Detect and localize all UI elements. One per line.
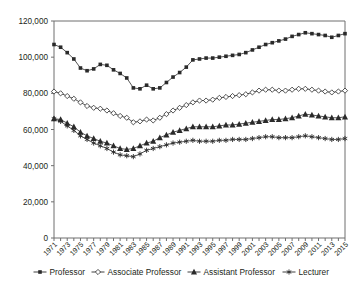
data-point (204, 56, 208, 60)
data-point (342, 114, 348, 120)
legend-marker-filled-square-icon (38, 270, 42, 274)
data-point (84, 103, 89, 108)
data-point (217, 95, 222, 100)
data-point (97, 138, 103, 144)
data-point (237, 53, 241, 57)
series-associate-professor (51, 86, 347, 125)
data-point (98, 106, 103, 111)
data-point (323, 89, 328, 94)
legend-label: Assistant Professor (204, 267, 276, 277)
data-point (112, 68, 116, 72)
data-point (92, 67, 96, 71)
data-point (137, 143, 143, 149)
data-point (151, 118, 156, 123)
data-point (330, 35, 334, 39)
y-axis-tick-label: 60,000 (23, 126, 48, 135)
data-point (224, 54, 228, 58)
data-point (211, 56, 215, 60)
chart-container: 020,00040,00060,00080,000100,000120,000 … (0, 0, 362, 288)
data-point (257, 45, 261, 49)
data-point (144, 148, 149, 153)
data-point (78, 100, 83, 105)
legend-item-assistant-professor[interactable]: Assistant Professor (188, 267, 276, 277)
series-layer (51, 31, 348, 159)
data-point (270, 41, 274, 45)
data-point (65, 51, 69, 55)
y-axis-tick-label: 20,000 (23, 198, 48, 207)
data-point (105, 64, 109, 68)
chart-legend: ProfessorAssociate ProfessorAssistant Pr… (34, 267, 330, 277)
data-point (303, 86, 308, 91)
y-axis-tick-label: 120,000 (18, 17, 48, 26)
data-point (190, 100, 195, 105)
data-point (125, 76, 129, 80)
data-point (218, 55, 222, 59)
data-point (343, 32, 347, 36)
legend-item-associate-professor[interactable]: Associate Professor (92, 267, 182, 277)
y-axis-tick-label: 80,000 (23, 89, 48, 98)
data-point (164, 112, 169, 117)
x-axis-tick-label: 2015 (332, 240, 350, 258)
data-point (104, 108, 109, 113)
data-point (297, 33, 301, 37)
data-point (289, 87, 294, 92)
chart-svg: 020,00040,00060,00080,000100,000120,000 … (0, 0, 362, 288)
data-point (157, 115, 162, 120)
legend-marker-open-diamond-icon (95, 269, 100, 274)
data-point (329, 90, 334, 95)
data-point (131, 120, 136, 125)
data-point (118, 72, 122, 76)
legend-label: Lecturer (299, 267, 330, 277)
data-point (210, 97, 215, 102)
data-point (177, 105, 182, 110)
data-point (304, 31, 308, 35)
data-point (198, 57, 202, 61)
data-point (256, 88, 261, 93)
data-point (58, 91, 63, 96)
data-point (163, 132, 169, 138)
data-point (72, 57, 76, 61)
data-point (71, 96, 76, 101)
data-point (150, 138, 156, 144)
legend-item-professor[interactable]: Professor (34, 267, 86, 277)
data-point (158, 144, 163, 149)
y-axis-tick-label: 0 (43, 234, 48, 243)
data-point (144, 117, 149, 122)
data-point (65, 93, 70, 98)
data-point (191, 58, 195, 62)
data-point (337, 34, 341, 38)
data-point (323, 34, 327, 38)
data-point (270, 87, 275, 92)
data-point (243, 92, 248, 97)
data-point (105, 146, 110, 151)
legend-item-lecturer[interactable]: Lecturer (283, 267, 330, 277)
data-point (151, 87, 155, 91)
data-point (52, 43, 56, 47)
data-point (124, 115, 129, 120)
data-point (130, 145, 136, 151)
data-point (118, 113, 123, 118)
y-axis-tick-label: 100,000 (18, 53, 48, 62)
data-point (110, 143, 116, 149)
series-lecturer (52, 116, 348, 159)
series-assistant-professor (51, 111, 348, 152)
data-point (317, 33, 321, 37)
data-point (184, 102, 189, 107)
data-point (117, 145, 123, 151)
data-point (237, 93, 242, 98)
data-point (283, 88, 288, 93)
data-point (336, 89, 341, 94)
data-point (171, 75, 175, 79)
data-point (164, 142, 169, 147)
data-point (178, 71, 182, 75)
data-point (310, 32, 314, 36)
data-point (85, 69, 89, 73)
data-point (316, 88, 321, 93)
legend-label: Professor (50, 267, 86, 277)
data-point (132, 86, 136, 90)
data-point (231, 54, 235, 58)
data-point (296, 86, 301, 91)
data-point (151, 146, 156, 151)
data-point (98, 63, 102, 67)
data-point (157, 134, 163, 140)
